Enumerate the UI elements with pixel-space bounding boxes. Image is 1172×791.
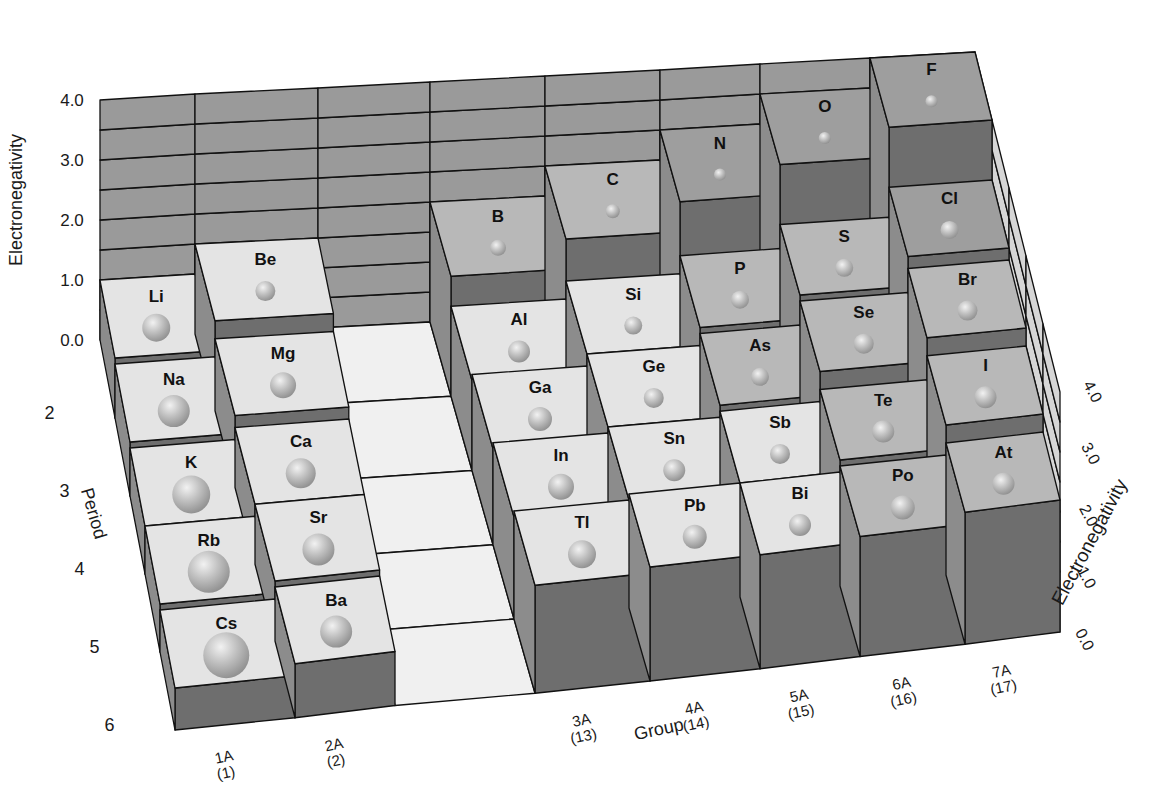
period-axis-label: Period bbox=[77, 486, 111, 542]
period-tick: 2 bbox=[44, 403, 54, 423]
z-axis-label-left: Electronegativity bbox=[6, 134, 26, 266]
atomic-size-sphere bbox=[751, 368, 769, 386]
back-wall-cell bbox=[318, 82, 430, 118]
bar-At: At bbox=[946, 432, 1060, 644]
atomic-size-sphere bbox=[548, 474, 574, 500]
atomic-size-sphere bbox=[172, 475, 210, 513]
element-symbol: B bbox=[492, 207, 504, 226]
atomic-size-sphere bbox=[872, 421, 894, 443]
atomic-size-sphere bbox=[891, 495, 915, 519]
bar-front-face bbox=[965, 500, 1060, 644]
atomic-size-sphere bbox=[320, 616, 352, 648]
z-tick-right: 3.0 bbox=[1078, 440, 1103, 468]
atomic-size-sphere bbox=[568, 540, 596, 568]
z-tick-left: 1.0 bbox=[60, 271, 84, 290]
period-tick: 6 bbox=[104, 715, 114, 735]
atomic-size-sphere bbox=[926, 95, 938, 107]
z-tick-left: 3.0 bbox=[60, 151, 84, 170]
element-symbol: Pb bbox=[684, 496, 706, 515]
atomic-size-sphere bbox=[819, 132, 831, 144]
atomic-size-sphere bbox=[203, 632, 249, 678]
atomic-size-sphere bbox=[731, 291, 749, 309]
z-tick-left: 2.0 bbox=[60, 211, 84, 230]
element-symbol: Na bbox=[163, 370, 185, 389]
z-tick-right: 0.0 bbox=[1072, 626, 1097, 654]
group-axis-label: Group bbox=[632, 714, 685, 744]
atomic-size-sphere bbox=[142, 314, 170, 342]
atomic-size-sphere bbox=[528, 407, 552, 431]
atomic-size-sphere bbox=[789, 514, 811, 536]
period-tick: 5 bbox=[89, 637, 99, 657]
element-symbol: I bbox=[983, 356, 988, 375]
atomic-size-sphere bbox=[958, 301, 978, 321]
period-tick: 4 bbox=[74, 559, 84, 579]
atomic-size-sphere bbox=[302, 533, 334, 565]
element-symbol: Be bbox=[254, 250, 276, 269]
element-symbol: Sn bbox=[663, 429, 685, 448]
element-symbol: C bbox=[607, 170, 619, 189]
back-wall-cell bbox=[195, 88, 318, 124]
atomic-size-sphere bbox=[490, 240, 506, 256]
element-symbol: Sr bbox=[309, 508, 327, 527]
atomic-size-sphere bbox=[941, 221, 959, 239]
bar-Ba: Ba bbox=[275, 576, 395, 718]
atomic-size-sphere bbox=[188, 551, 230, 593]
element-symbol: O bbox=[818, 97, 831, 116]
element-symbol: Ga bbox=[529, 378, 552, 397]
element-symbol: Te bbox=[874, 391, 893, 410]
element-symbol: Se bbox=[853, 303, 874, 322]
element-symbol: K bbox=[185, 453, 198, 472]
element-symbol: Br bbox=[958, 270, 977, 289]
element-symbol: P bbox=[734, 259, 745, 278]
element-symbol: N bbox=[714, 134, 726, 153]
back-wall-cell bbox=[545, 70, 660, 106]
element-symbol: Mg bbox=[271, 344, 296, 363]
electronegativity-3d-chart: LiBeBCNOFNaMgAlSiPSClKCaGaGeAsSeBrRbSrIn… bbox=[0, 0, 1172, 791]
atomic-size-sphere bbox=[770, 444, 790, 464]
period-tick: 3 bbox=[59, 481, 69, 501]
atomic-size-sphere bbox=[854, 334, 874, 354]
atomic-size-sphere bbox=[714, 169, 726, 181]
group-tick-sub: (1) bbox=[215, 762, 236, 782]
element-symbol: Po bbox=[892, 466, 914, 485]
element-symbol: Bi bbox=[792, 484, 809, 503]
atomic-size-sphere bbox=[624, 317, 642, 335]
back-wall-cell bbox=[660, 64, 760, 100]
element-symbol: At bbox=[995, 443, 1013, 462]
atomic-size-sphere bbox=[286, 458, 316, 488]
atomic-size-sphere bbox=[993, 473, 1015, 495]
element-symbol: In bbox=[553, 446, 568, 465]
atomic-size-sphere bbox=[255, 281, 275, 301]
atomic-size-sphere bbox=[663, 459, 685, 481]
z-tick-left: 0.0 bbox=[60, 331, 84, 350]
element-symbol: Cs bbox=[215, 614, 237, 633]
element-symbol: As bbox=[749, 336, 771, 355]
z-tick-left: 4.0 bbox=[60, 91, 84, 110]
element-symbol: Li bbox=[149, 287, 164, 306]
atomic-size-sphere bbox=[835, 259, 853, 277]
atomic-size-sphere bbox=[606, 204, 620, 218]
element-symbol: Ge bbox=[642, 357, 665, 376]
atomic-size-sphere bbox=[644, 388, 664, 408]
group-tick-sub: (2) bbox=[325, 750, 346, 770]
atomic-size-sphere bbox=[270, 372, 296, 398]
atomic-size-sphere bbox=[975, 386, 997, 408]
element-symbol: Ba bbox=[325, 591, 347, 610]
element-symbol: Cl bbox=[941, 189, 958, 208]
back-wall-cell bbox=[100, 94, 195, 130]
element-symbol: Al bbox=[511, 310, 528, 329]
floor-cell bbox=[380, 619, 535, 706]
atomic-size-sphere bbox=[508, 340, 530, 362]
element-symbol: F bbox=[926, 60, 936, 79]
element-symbol: Ca bbox=[290, 432, 312, 451]
z-tick-right: 4.0 bbox=[1080, 378, 1105, 406]
atomic-size-sphere bbox=[683, 525, 707, 549]
back-wall-cell bbox=[430, 76, 545, 112]
element-symbol: S bbox=[839, 227, 850, 246]
atomic-size-sphere bbox=[158, 395, 190, 427]
element-symbol: Si bbox=[625, 285, 641, 304]
element-symbol: Tl bbox=[574, 513, 589, 532]
element-symbol: Sb bbox=[769, 413, 791, 432]
element-symbol: Rb bbox=[197, 531, 220, 550]
